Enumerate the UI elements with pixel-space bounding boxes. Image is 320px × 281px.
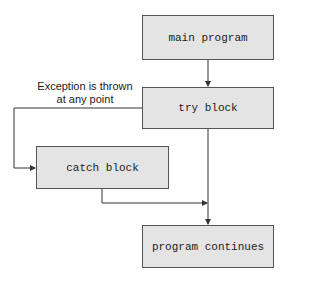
main-program-label: main program — [168, 32, 247, 44]
exception-annotation-line1: Exception is thrown — [30, 80, 140, 93]
catch-block-node: catch block — [36, 146, 169, 189]
exception-annotation: Exception is thrown at any point — [30, 80, 140, 106]
program-continues-label: program continues — [152, 241, 264, 253]
try-block-label: try block — [178, 102, 237, 114]
catch-block-label: catch block — [66, 162, 139, 174]
exception-annotation-line2: at any point — [30, 93, 140, 106]
program-continues-node: program continues — [142, 225, 274, 268]
main-program-node: main program — [142, 15, 274, 60]
try-block-node: try block — [142, 87, 274, 129]
